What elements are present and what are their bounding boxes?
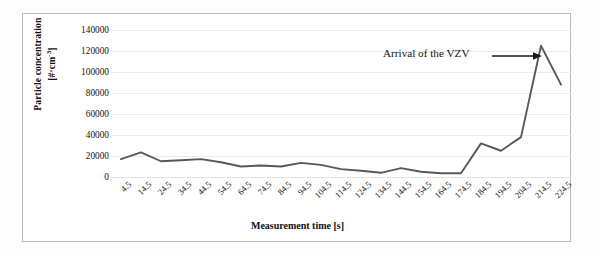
x-axis-tick-label: 74.5 bbox=[256, 180, 273, 197]
x-axis-tick-label: 4.5 bbox=[119, 180, 133, 194]
x-axis-tick-label: 144.5 bbox=[393, 180, 413, 200]
x-axis-tick-label: 84.5 bbox=[276, 180, 293, 197]
x-axis-tick-label: 134.5 bbox=[373, 180, 393, 200]
x-axis-tick-label: 194.5 bbox=[493, 180, 513, 200]
annotation-label: Arrival of the VZV bbox=[383, 47, 469, 59]
x-axis-tick-label: 184.5 bbox=[473, 180, 493, 200]
x-axis-tick-label: 14.5 bbox=[136, 180, 153, 197]
y-axis-title: Particle concentration [#·cm-3] bbox=[33, 0, 57, 134]
y-axis-tick-label: 100000 bbox=[61, 67, 109, 77]
x-axis-tick-label: 204.5 bbox=[513, 180, 533, 200]
y-axis-tick-label: 20000 bbox=[61, 151, 109, 161]
x-axis-tick-label: 214.5 bbox=[533, 180, 553, 200]
x-axis-tick-labels: 4.514.524.534.544.554.564.574.584.594.51… bbox=[111, 180, 571, 222]
y-axis-tick-label: 80000 bbox=[61, 88, 109, 98]
gridline bbox=[111, 177, 571, 178]
y-axis-title-unit: [#·cm-3] bbox=[43, 0, 57, 134]
x-axis-tick-label: 64.5 bbox=[236, 180, 253, 197]
x-axis-title: Measurement time [s] bbox=[23, 220, 572, 231]
x-axis-tick-label: 124.5 bbox=[353, 180, 373, 200]
x-axis-tick-label: 44.5 bbox=[196, 180, 213, 197]
y-axis-tick-label: 40000 bbox=[61, 130, 109, 140]
x-axis-tick-label: 24.5 bbox=[156, 180, 173, 197]
x-axis-tick-label: 164.5 bbox=[433, 180, 453, 200]
x-axis-tick-label: 174.5 bbox=[453, 180, 473, 200]
y-axis-tick-label: 120000 bbox=[61, 46, 109, 56]
figure-root: Particle concentration [#·cm-3] 14000012… bbox=[0, 0, 597, 259]
x-axis-tick-label: 94.5 bbox=[296, 180, 313, 197]
x-axis-tick-label: 54.5 bbox=[216, 180, 233, 197]
y-axis-tick-label: 140000 bbox=[61, 25, 109, 35]
y-axis-unit-exponent: -3 bbox=[44, 51, 51, 57]
right-arrow-icon bbox=[491, 50, 543, 62]
y-axis-title-main: Particle concentration bbox=[32, 18, 43, 111]
chart-frame: Particle concentration [#·cm-3] 14000012… bbox=[22, 13, 571, 242]
y-axis-unit-prefix: [#·cm bbox=[46, 57, 57, 81]
x-axis-tick-label: 34.5 bbox=[176, 180, 193, 197]
x-axis-tick-label: 114.5 bbox=[334, 180, 354, 200]
x-axis-tick-label: 224.5 bbox=[553, 180, 573, 200]
x-axis-tick-label: 154.5 bbox=[413, 180, 433, 200]
y-axis-tick-labels: 140000120000100000800006000040000200000 bbox=[61, 23, 109, 177]
series-polyline bbox=[121, 46, 561, 174]
x-axis-tick-label: 104.5 bbox=[313, 180, 333, 200]
y-axis-tick-label: 0 bbox=[61, 172, 109, 182]
y-axis-tick-label: 60000 bbox=[61, 109, 109, 119]
y-axis-unit-suffix: ] bbox=[46, 48, 57, 51]
